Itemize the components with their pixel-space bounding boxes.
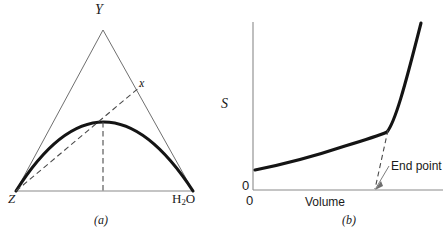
apex-label-y: Y [95, 3, 103, 17]
water-element-o: O [186, 191, 195, 206]
tangent-extrapolation-dashed [375, 130, 388, 189]
x-axis-origin-tick-label: 0 [246, 194, 253, 207]
panel-a-caption: (a) [94, 214, 108, 226]
triangle-right-edge [103, 30, 193, 191]
y-axis-label: S [221, 97, 228, 111]
right-vertex-label-water: H2O [172, 192, 195, 207]
end-point-annotation: End point [391, 160, 442, 172]
binodal-arc-curve [16, 122, 193, 191]
left-vertex-label-z: Z [8, 192, 15, 205]
x-axis-label: Volume [305, 196, 345, 208]
point-label-x: x [139, 77, 144, 89]
titration-curve [255, 23, 421, 170]
water-element-h: H [172, 191, 181, 206]
figure-canvas: Y x Z H2O (a) S 0 0 Volume End point (b) [0, 0, 447, 237]
endpoint-arrow-shaft [376, 166, 389, 188]
panel-a-graphics [16, 30, 193, 191]
tie-line-dashed [16, 86, 141, 191]
y-axis-origin-tick-label: 0 [242, 179, 249, 192]
figure-vector-layer [0, 0, 447, 237]
panel-b-caption: (b) [342, 214, 356, 226]
triangle-left-edge [16, 30, 103, 191]
